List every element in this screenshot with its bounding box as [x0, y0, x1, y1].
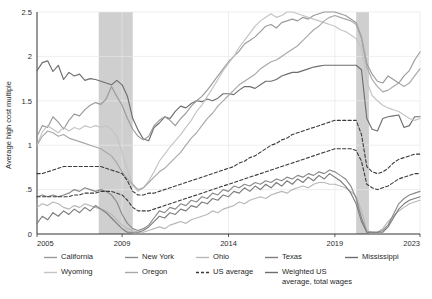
legend-column: TexasWeighted US average, total wages — [265, 252, 354, 282]
y-axis-tick-labels: 0.511.522.5 — [22, 8, 32, 239]
legend-line-swatch — [196, 268, 209, 277]
legend-item[interactable]: Weighted US average, total wages — [265, 267, 354, 279]
y-tick-label: 1 — [28, 141, 32, 150]
legend-item[interactable]: Mississippi — [345, 252, 399, 264]
legend-label: New York — [142, 252, 174, 262]
legend-item[interactable]: Oregon — [125, 267, 174, 279]
legend-item[interactable]: Wyoming — [44, 267, 93, 279]
chart-legend: CaliforniaWyomingNew YorkOregonOhioUS av… — [0, 248, 432, 299]
y-tick-label: 1.5 — [22, 97, 32, 106]
y-tick-label: 2.5 — [22, 8, 32, 17]
chart-container: 0.511.522.5 20052009201420192023 Average… — [0, 0, 432, 299]
legend-column: OhioUS average — [196, 252, 253, 282]
y-tick-label: .5 — [26, 185, 32, 194]
x-tick-label: 2019 — [327, 239, 344, 248]
legend-item[interactable]: New York — [125, 252, 174, 264]
legend-item[interactable]: Ohio — [196, 252, 253, 264]
y-tick-label: 0 — [28, 230, 32, 239]
x-axis-tick-labels: 20052009201420192023 — [37, 234, 420, 248]
y-tick-label: 2 — [28, 52, 32, 61]
x-tick-label: 2005 — [37, 239, 54, 248]
legend-line-swatch — [125, 268, 138, 277]
legend-label: Texas — [282, 252, 302, 262]
legend-label: Ohio — [213, 252, 229, 262]
legend-line-swatch — [265, 268, 278, 277]
y-axis-title: Average high cost multiple — [4, 81, 13, 169]
legend-column: New YorkOregon — [125, 252, 174, 282]
legend-line-swatch — [125, 253, 138, 262]
legend-line-swatch — [44, 253, 57, 262]
legend-label: US average — [213, 267, 253, 277]
legend-line-swatch — [196, 253, 209, 262]
x-tick-label: 2014 — [220, 239, 237, 248]
legend-label: Mississippi — [362, 252, 399, 262]
legend-line-swatch — [44, 268, 57, 277]
legend-line-swatch — [265, 253, 278, 262]
legend-item[interactable]: Texas — [265, 252, 354, 264]
legend-label: Weighted US average, total wages — [282, 267, 354, 286]
legend-label: Wyoming — [61, 267, 93, 277]
legend-column: CaliforniaWyoming — [44, 252, 93, 282]
legend-column: Mississippi — [345, 252, 399, 267]
legend-item[interactable]: US average — [196, 267, 253, 279]
legend-item[interactable]: California — [44, 252, 93, 264]
x-tick-label: 2023 — [403, 239, 420, 248]
legend-line-swatch — [345, 253, 358, 262]
x-tick-label: 2009 — [114, 239, 131, 248]
legend-label: California — [61, 252, 93, 262]
legend-label: Oregon — [142, 267, 167, 277]
